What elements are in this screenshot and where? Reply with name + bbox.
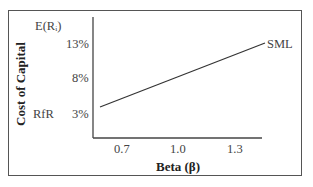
y-axis-title: Cost of Capital — [13, 42, 29, 126]
x-tick-1-3: 1.3 — [227, 143, 243, 156]
expected-return-label: E(Rᵢ) — [35, 20, 61, 33]
x-axis-title: Beta (β) — [156, 159, 200, 175]
x-tick-0-7: 0.7 — [114, 143, 130, 156]
risk-free-label: RfR — [33, 108, 54, 121]
sml-line — [100, 43, 265, 107]
sml-label: SML — [267, 38, 293, 51]
x-tick-1-0: 1.0 — [170, 143, 186, 156]
y-tick-13: 13% — [66, 38, 89, 51]
y-tick-3: 3% — [72, 108, 89, 121]
y-tick-8: 8% — [72, 72, 89, 85]
